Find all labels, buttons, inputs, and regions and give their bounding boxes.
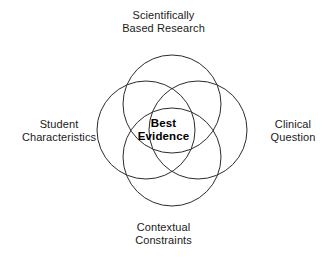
- venn-diagram: Scientifically Based Research Student Ch…: [0, 0, 327, 260]
- label-best-evidence: Best Evidence: [0, 117, 327, 143]
- label-contextual-constraints: Contextual Constraints: [0, 221, 327, 246]
- label-bottom-line-2: Constraints: [0, 234, 327, 247]
- label-bottom-line-1: Contextual: [0, 221, 327, 234]
- label-center-line-1: Best: [0, 117, 327, 130]
- label-top-line-2: Based Research: [0, 22, 327, 35]
- label-top-line-1: Scientifically: [0, 9, 327, 22]
- label-scientifically-based-research: Scientifically Based Research: [0, 9, 327, 34]
- label-center-line-2: Evidence: [0, 130, 327, 143]
